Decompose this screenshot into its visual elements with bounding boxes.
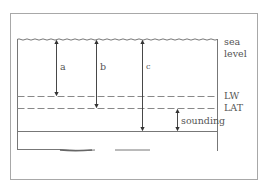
label-sounding: sounding [181, 116, 225, 126]
label-b: b [100, 62, 106, 72]
sea-level-line [17, 39, 217, 40]
label-c: c [146, 62, 150, 72]
label-sea: sea [224, 37, 240, 47]
smudge [60, 150, 92, 151]
label-a: a [60, 62, 66, 72]
label-level: level [224, 49, 247, 59]
label-lat: LAT [224, 103, 243, 113]
label-lw: LW [224, 91, 239, 101]
